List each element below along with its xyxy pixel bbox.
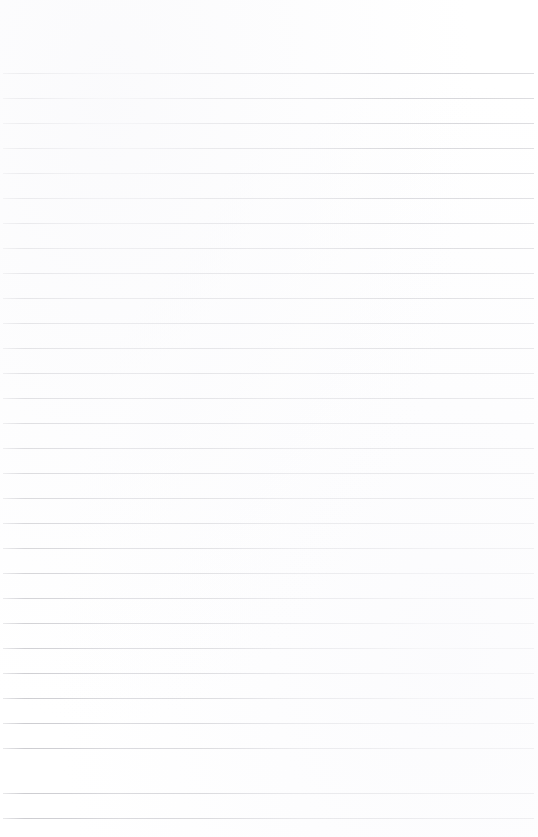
bottom-margin-area [0,818,538,837]
lined-paper-sheet [0,0,538,837]
writing-surface[interactable] [3,73,534,818]
